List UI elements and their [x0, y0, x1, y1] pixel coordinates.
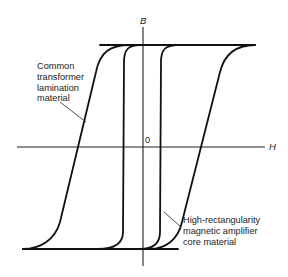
hysteresis-diagram: B H 0 Common transformer lamination mate… [0, 0, 288, 277]
annotation-wide-loop-line2: transformer [37, 72, 84, 82]
annotation-rect-loop-line2: magnetic amplifier [183, 226, 258, 236]
annotation-rect-loop-line1: High-rectangularity [183, 215, 261, 225]
annotation-rect-loop-line3: core material [183, 237, 236, 247]
annotation-wide-loop-line4: material [37, 93, 70, 103]
annotation-wide-loop-line1: Common [37, 61, 74, 71]
annotation-wide-loop-line3: lamination [37, 83, 79, 93]
leader-line-wide-loop [60, 102, 86, 122]
h-axis-label: H [269, 141, 276, 152]
origin-label: 0 [145, 135, 150, 145]
b-axis-label: B [140, 15, 147, 26]
leader-line-rect-loop [164, 212, 181, 227]
